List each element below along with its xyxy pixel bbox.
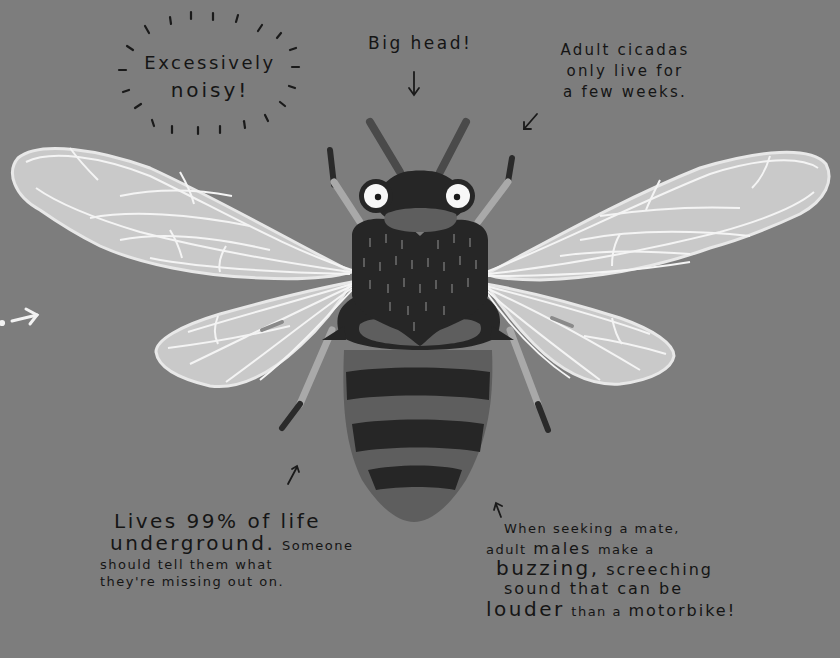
- arrow-up-right-icon: [288, 466, 299, 484]
- annotation-big-head: Big head!: [368, 34, 472, 53]
- annotation-excessively-noisy: Excessively noisy!: [140, 50, 280, 105]
- males-line-4: sound that can be: [486, 580, 736, 598]
- males-line-5a: louder: [486, 597, 565, 621]
- arrow-up-left-icon: [494, 503, 502, 517]
- lives-line-1: Lives 99% of life: [100, 510, 354, 532]
- abdomen: [343, 350, 492, 522]
- noisy-line-1: Excessively: [140, 50, 280, 76]
- arrow-down-left-icon: [524, 114, 537, 129]
- right-forewing: [486, 152, 829, 280]
- males-line-2b: males: [533, 539, 591, 558]
- males-line-1: When seeking a mate,: [486, 522, 736, 537]
- antennae: [370, 122, 466, 172]
- arrow-down-icon: [409, 72, 419, 95]
- left-forewing: [13, 148, 352, 279]
- males-line-2a: adult: [486, 542, 527, 557]
- annotation-lives-underground: Lives 99% of life underground. Someone s…: [100, 510, 354, 590]
- lives-line-2b: Someone: [282, 538, 354, 553]
- cicada-infographic: Excessively noisy! Big head! Adult cicad…: [0, 0, 840, 658]
- males-line-3a: buzzing,: [496, 556, 600, 580]
- males-line-3b: screeching: [606, 560, 713, 579]
- arrow-right-icon: [0, 309, 37, 325]
- lives-line-2a: underground.: [110, 531, 275, 555]
- males-line-5b: than a: [571, 604, 622, 619]
- left-hindwing: [156, 282, 352, 387]
- males-line-5c: motorbike!: [629, 601, 737, 620]
- adult-line-3: a few weeks.: [540, 82, 710, 103]
- lives-line-3: should tell them what: [100, 558, 354, 573]
- noisy-line-2: noisy!: [140, 76, 280, 105]
- males-line-2c: make a: [598, 542, 655, 557]
- annotation-adult-lifespan: Adult cicadas only live for a few weeks.: [540, 40, 710, 103]
- adult-line-1: Adult cicadas: [540, 40, 710, 61]
- annotation-male-mating-call: When seeking a mate, adult males make a …: [486, 522, 736, 620]
- adult-line-2: only live for: [540, 61, 710, 82]
- lives-line-4: they're missing out on.: [100, 575, 354, 590]
